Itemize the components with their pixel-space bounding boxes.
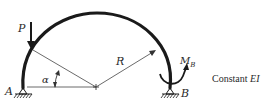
angle-arrowhead-top-icon bbox=[55, 70, 60, 76]
radius-arrowhead-icon bbox=[149, 50, 156, 56]
load-label: P bbox=[17, 22, 26, 35]
arch-diagram: P α R A B MB Constant EI bbox=[0, 0, 267, 111]
radius-line bbox=[96, 52, 153, 87]
constant-ei-note: Constant EI bbox=[212, 73, 260, 84]
angle-label: α bbox=[42, 74, 49, 85]
moment-arc bbox=[160, 68, 186, 84]
ei-symbol: EI bbox=[249, 73, 260, 84]
moment-subscript: B bbox=[189, 61, 195, 69]
radius-label: R bbox=[115, 55, 124, 68]
support-a-label: A bbox=[4, 85, 13, 98]
support-b-label: B bbox=[180, 87, 189, 100]
